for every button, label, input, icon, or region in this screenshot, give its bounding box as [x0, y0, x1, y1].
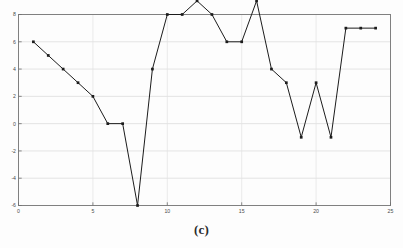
data-point-marker: [47, 54, 50, 57]
data-point-marker: [330, 136, 333, 139]
data-point-marker: [270, 68, 273, 71]
y-tick-label: 0: [13, 121, 16, 127]
data-point-marker: [315, 81, 318, 84]
data-series-line: [33, 1, 375, 206]
y-tick-label: 8: [13, 11, 16, 17]
figure-container: 0510152025 -6-4-202468 (c): [0, 0, 403, 248]
data-point-marker: [62, 68, 65, 71]
data-point-marker: [166, 13, 169, 16]
data-point-marker: [345, 27, 348, 30]
data-point-marker: [136, 204, 139, 207]
data-point-marker: [285, 81, 288, 84]
data-point-marker: [77, 81, 80, 84]
data-point-marker: [181, 13, 184, 16]
x-tick-label: 5: [91, 208, 94, 214]
x-tick-label: 10: [164, 208, 170, 214]
x-tick-label: 15: [239, 208, 245, 214]
data-point-marker: [225, 40, 228, 43]
y-tick-label: 6: [13, 39, 16, 45]
data-point-marker: [211, 13, 214, 16]
x-tick-label: 25: [388, 208, 394, 214]
data-point-marker: [374, 27, 377, 30]
y-axis-tick-labels: -6-4-202468: [11, 11, 16, 208]
y-tick-label: 4: [13, 66, 16, 72]
data-point-marker: [92, 95, 95, 98]
data-point-marker: [359, 27, 362, 30]
series-polyline: [33, 1, 375, 206]
data-point-marker: [196, 0, 199, 2]
y-tick-label: -6: [11, 202, 16, 208]
y-tick-label: 2: [13, 93, 16, 99]
data-point-marker: [300, 136, 303, 139]
data-point-marker: [240, 40, 243, 43]
x-tick-label: 0: [17, 208, 20, 214]
x-tick-label: 20: [313, 208, 319, 214]
data-point-marker: [106, 122, 109, 125]
data-series-markers: [32, 0, 377, 207]
data-point-marker: [121, 122, 124, 125]
data-point-marker: [32, 40, 35, 43]
line-chart: 0510152025 -6-4-202468: [0, 0, 403, 248]
data-point-marker: [151, 68, 154, 71]
data-point-marker: [255, 0, 258, 2]
y-tick-label: -4: [11, 175, 16, 181]
x-axis-tick-labels: 0510152025: [17, 208, 393, 214]
y-tick-label: -2: [11, 148, 16, 154]
figure-caption: (c): [0, 222, 403, 238]
